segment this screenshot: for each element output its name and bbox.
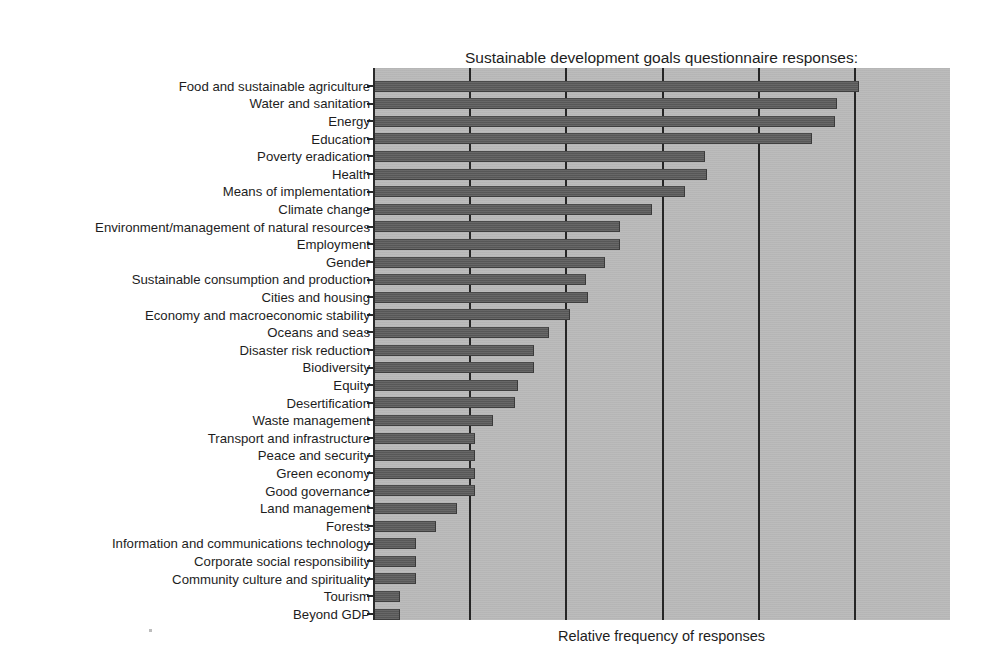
bar	[373, 169, 707, 180]
category-label: Education	[10, 133, 370, 146]
category-label: Peace and security	[10, 449, 370, 462]
bar	[373, 204, 652, 215]
category-label: Water and sanitation	[10, 97, 370, 110]
category-label: Forests	[10, 520, 370, 533]
category-label: Poverty eradication	[10, 150, 370, 163]
plot-area	[373, 68, 950, 620]
y-axis-labels: Food and sustainable agricultureWater an…	[8, 68, 370, 620]
bar	[373, 433, 475, 444]
category-label: Oceans and seas	[10, 326, 370, 339]
category-label: Tourism	[10, 590, 370, 603]
gridline-4	[854, 68, 856, 620]
bar	[373, 485, 475, 496]
category-label: Sustainable consumption and production	[10, 273, 370, 286]
bar	[373, 133, 812, 144]
category-label: Information and communications technolog…	[10, 537, 370, 550]
category-label: Community culture and spirituality	[10, 573, 370, 586]
bar	[373, 415, 493, 426]
category-label: Means of implementation	[10, 185, 370, 198]
category-label: Health	[10, 168, 370, 181]
bar	[373, 151, 705, 162]
bar	[373, 116, 835, 127]
bar	[373, 292, 588, 303]
bar	[373, 362, 534, 373]
bar	[373, 221, 620, 232]
gridline-3	[758, 68, 760, 620]
category-label: Climate change	[10, 203, 370, 216]
chart-figure: Sustainable development goals questionna…	[0, 0, 989, 658]
category-label: Gender	[10, 256, 370, 269]
bar	[373, 450, 475, 461]
bar	[373, 309, 570, 320]
category-label: Biodiversity	[10, 361, 370, 374]
bar	[373, 468, 475, 479]
scan-artifact-dot	[149, 629, 152, 632]
category-label: Desertification	[10, 397, 370, 410]
category-label: Employment	[10, 238, 370, 251]
category-label: Transport and infrastructure	[10, 432, 370, 445]
category-label: Disaster risk reduction	[10, 344, 370, 357]
bar	[373, 380, 518, 391]
x-axis-label: Relative frequency of responses	[373, 628, 950, 644]
category-label: Land management	[10, 502, 370, 515]
category-label: Beyond GDP	[10, 608, 370, 621]
bar	[373, 327, 549, 338]
bar	[373, 239, 620, 250]
bar	[373, 81, 859, 92]
category-label: Equity	[10, 379, 370, 392]
category-label: Green economy	[10, 467, 370, 480]
bar	[373, 397, 515, 408]
chart-title-line-1: Sustainable development goals questionna…	[373, 47, 950, 68]
category-label: Food and sustainable agriculture	[10, 80, 370, 93]
bar	[373, 186, 685, 197]
bar	[373, 521, 436, 532]
category-label: Economy and macroeconomic stability	[10, 309, 370, 322]
bar	[373, 98, 837, 109]
category-label: Good governance	[10, 485, 370, 498]
bar	[373, 257, 605, 268]
bar	[373, 503, 457, 514]
category-label: Cities and housing	[10, 291, 370, 304]
category-label: Energy	[10, 115, 370, 128]
category-label: Waste management	[10, 414, 370, 427]
category-label: Corporate social responsibility	[10, 555, 370, 568]
bar	[373, 345, 534, 356]
bar	[373, 274, 586, 285]
category-label: Environment/management of natural resour…	[10, 221, 370, 234]
